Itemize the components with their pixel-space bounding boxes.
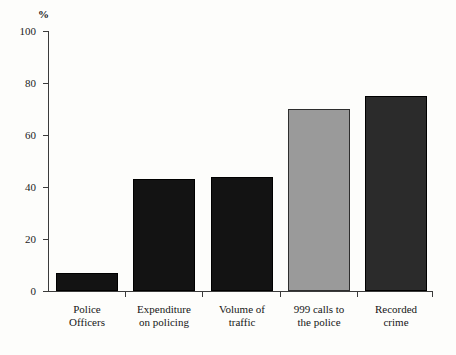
x-tick-3 xyxy=(280,291,281,297)
x-category-label-expenditure-on-policing: Expenditure on policing xyxy=(122,303,206,329)
cat-line-2: on policing xyxy=(122,316,206,329)
x-category-label-volume-of-traffic: Volume of traffic xyxy=(202,303,282,329)
y-tick-label-80: 80 xyxy=(10,77,36,89)
bar-recorded-crime xyxy=(365,96,427,291)
x-axis-line xyxy=(48,291,433,292)
cat-line-1: Recorded xyxy=(375,303,417,315)
x-category-label-999-calls-to-the-police: 999 calls to the police xyxy=(279,303,359,329)
x-tick-2 xyxy=(202,291,203,297)
cat-line-2: the police xyxy=(279,316,359,329)
y-tick-label-20: 20 xyxy=(10,233,36,245)
y-axis-line xyxy=(48,31,49,292)
x-tick-4 xyxy=(357,291,358,297)
cat-line-1: Police xyxy=(73,303,101,315)
y-tick-20 xyxy=(43,239,49,240)
y-tick-label-100: 100 xyxy=(10,25,36,37)
y-tick-100 xyxy=(43,31,49,32)
cat-line-2: traffic xyxy=(202,316,282,329)
y-tick-label-40: 40 xyxy=(10,181,36,193)
bar-999-calls-to-the-police xyxy=(288,109,350,291)
cat-line-1: Volume of xyxy=(219,303,265,315)
y-tick-60 xyxy=(43,135,49,136)
cat-line-1: 999 calls to xyxy=(294,303,345,315)
y-axis-unit-label: % xyxy=(38,8,49,20)
x-tick-5 xyxy=(432,291,433,297)
y-tick-label-60: 60 xyxy=(10,129,36,141)
bar-expenditure-on-policing xyxy=(133,179,195,291)
y-tick-80 xyxy=(43,83,49,84)
x-category-label-police-officers: Police Officers xyxy=(47,303,127,329)
cat-line-1: Expenditure xyxy=(137,303,191,315)
x-category-label-recorded-crime: Recorded crime xyxy=(356,303,436,329)
cat-line-2: Officers xyxy=(47,316,127,329)
cat-line-2: crime xyxy=(356,316,436,329)
bar-police-officers xyxy=(56,273,118,291)
plot-area: % 100 80 60 40 20 0 Police Office xyxy=(0,0,456,355)
y-tick-0 xyxy=(43,291,49,292)
x-tick-1 xyxy=(125,291,126,297)
y-tick-40 xyxy=(43,187,49,188)
y-tick-label-0: 0 xyxy=(10,285,36,297)
bar-volume-of-traffic xyxy=(211,177,273,291)
bar-chart: % 100 80 60 40 20 0 Police Office xyxy=(0,0,456,355)
